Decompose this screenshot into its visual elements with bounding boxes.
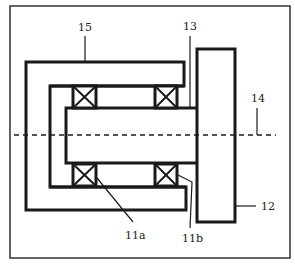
label-13: 13 [183,21,197,32]
label-11b: 11b [182,233,203,244]
label-14: 14 [251,93,265,104]
leader-11a [97,178,133,222]
diagram-drawing [0,0,295,265]
label-12: 12 [261,201,275,212]
diagram-canvas: 15 13 14 12 11a 11b [0,0,295,265]
bearing-top-left [73,86,96,108]
label-15: 15 [78,22,92,33]
bearing-11a [73,164,96,186]
outer-frame [10,6,290,258]
label-11a: 11a [125,230,146,241]
bearing-11b [155,164,177,186]
bearing-top-right [155,86,177,108]
